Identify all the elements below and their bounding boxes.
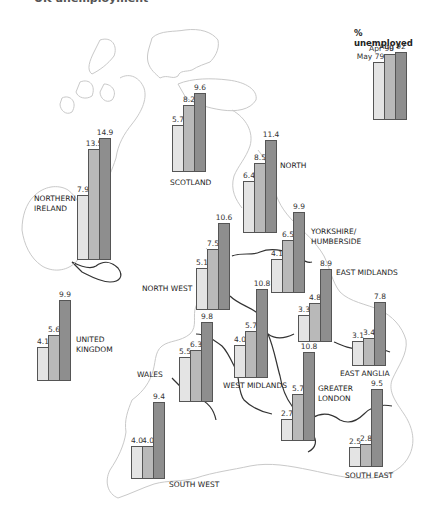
bar-aug-92: [303, 352, 315, 441]
bar-aug-92: [371, 389, 383, 467]
bar-value-label: 10.8: [254, 279, 271, 288]
bar-aug-92: [59, 300, 71, 381]
region-label: SOUTH EAST: [345, 471, 393, 481]
bar-value-label: 9.8: [201, 312, 213, 321]
bar-value-label: 9.9: [293, 202, 305, 211]
region-label: WALES: [137, 370, 163, 380]
legend-label: Aug 92: [379, 42, 406, 51]
region-label: SOUTH WEST: [169, 480, 219, 490]
region-label: SCOTLAND: [170, 178, 211, 188]
bar-value-label: 10.8: [301, 342, 318, 351]
bar-aug-92: [153, 402, 165, 479]
region-label: NORTH WEST: [142, 284, 192, 294]
bar-aug-92: [256, 289, 268, 378]
bar-aug-92: [374, 302, 386, 366]
bar-aug-92: [320, 269, 332, 342]
bar-aug-92: [293, 212, 305, 293]
bar-aug-92: [194, 93, 206, 172]
bar-aug-92: [218, 223, 230, 310]
bar-value-label: 9.4: [153, 392, 165, 401]
region-label: UNITED KINGDOM: [76, 335, 113, 355]
region-label: EAST ANGLIA: [340, 369, 390, 379]
bar-aug-92: [201, 322, 213, 402]
bar-value-label: 9.9: [59, 290, 71, 299]
legend-label: May 79: [357, 52, 384, 61]
bar-value-label: 14.9: [97, 128, 114, 137]
bar-value-label: 9.5: [371, 379, 383, 388]
bar-value-label: 7.8: [374, 292, 386, 301]
bar-value-label: 10.6: [216, 213, 233, 222]
legend-swatch: [395, 52, 407, 120]
bar-aug-92: [99, 138, 111, 260]
region-label: WEST MIDLANDS: [223, 381, 287, 391]
bar-value-label: 9.6: [194, 83, 206, 92]
bar-value-label: 8.9: [320, 259, 332, 268]
region-label: GREATER LONDON: [318, 384, 353, 404]
region-label: NORTH: [280, 161, 306, 171]
region-label: EAST MIDLANDS: [336, 268, 398, 278]
region-label: NORTHERN IRELAND: [34, 194, 76, 214]
bar-value-label: 11.4: [263, 130, 280, 139]
bar-aug-92: [265, 140, 277, 233]
region-label: YORKSHIRE/ HUMBERSIDE: [311, 227, 361, 247]
